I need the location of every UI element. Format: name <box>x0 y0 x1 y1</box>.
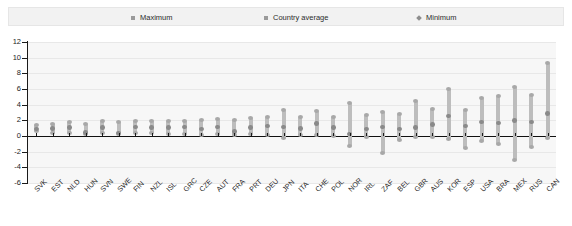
maximum-marker <box>182 119 187 123</box>
y-axis-tick-label: 0 <box>4 132 21 140</box>
x-axis-tick <box>366 133 367 136</box>
minimum-marker <box>512 158 517 162</box>
x-axis-tick <box>284 133 285 136</box>
country-average-marker <box>496 121 501 126</box>
x-axis-tick <box>185 133 186 136</box>
chart-root: Maximum Country average Minimum -6-4-202… <box>0 0 572 226</box>
country-average-marker <box>430 122 435 127</box>
y-axis-tick-label: 6 <box>4 85 21 93</box>
legend-item-minimum: Minimum <box>417 11 456 24</box>
legend-item-label: Country average <box>273 14 328 22</box>
country-average-marker <box>265 124 270 129</box>
legend-item-label: Minimum <box>426 14 456 22</box>
bar-series-layer <box>28 42 556 183</box>
y-axis-tick-label: -4 <box>4 163 21 171</box>
x-axis-tick <box>317 133 318 136</box>
y-axis-tick-label: 8 <box>4 69 21 77</box>
x-axis-labels: SVKESTNLDHUNSVNSWEFINNZLISLGRCCZEAUTFRAP… <box>0 184 572 226</box>
x-axis-tick <box>119 133 120 136</box>
minimum-marker <box>463 146 468 150</box>
legend-item-maximum: Maximum <box>131 11 173 24</box>
x-axis-tick <box>218 133 219 136</box>
bar-range <box>513 86 517 161</box>
legend-item-country-average: Country average <box>264 11 328 24</box>
x-axis-tick <box>383 133 384 136</box>
maximum-marker <box>232 118 237 122</box>
maximum-marker <box>364 113 369 117</box>
x-axis-tick <box>465 133 466 136</box>
legend-minimum-marker-icon <box>416 15 422 21</box>
maximum-marker <box>50 122 55 126</box>
x-axis-tick <box>300 133 301 136</box>
x-axis-tick <box>86 133 87 136</box>
minimum-marker <box>397 138 402 142</box>
x-axis-tick <box>267 133 268 136</box>
minimum-marker <box>281 136 286 140</box>
y-axis-tick-label: 10 <box>4 54 21 62</box>
legend-item-label: Maximum <box>140 14 173 22</box>
maximum-marker <box>529 93 534 97</box>
x-axis-tick <box>515 133 516 136</box>
x-axis-tick <box>69 133 70 136</box>
country-average-marker <box>331 125 336 130</box>
x-axis-tick <box>548 133 549 136</box>
y-axis-tick-label: 12 <box>4 38 21 46</box>
x-axis-tick <box>102 133 103 136</box>
x-axis-tick <box>251 133 252 136</box>
country-average-marker <box>100 125 105 130</box>
x-axis-tick <box>152 133 153 136</box>
minimum-marker <box>380 151 385 155</box>
x-axis-tick <box>482 133 483 136</box>
minimum-marker <box>529 145 534 149</box>
maximum-marker <box>199 118 204 122</box>
y-axis-tick-label: -2 <box>4 148 21 156</box>
country-average-marker <box>50 126 55 131</box>
x-axis-tick <box>432 133 433 136</box>
maximum-marker <box>67 120 72 124</box>
country-average-marker <box>463 124 468 129</box>
country-average-marker <box>166 125 171 130</box>
x-axis-tick <box>449 133 450 136</box>
y-axis-tick-label: 4 <box>4 101 21 109</box>
x-axis-tick <box>333 133 334 136</box>
country-average-marker <box>67 125 72 130</box>
x-axis-tick <box>350 133 351 136</box>
country-average-marker <box>133 125 138 130</box>
maximum-marker <box>430 107 435 111</box>
bar-range <box>414 100 418 138</box>
minimum-marker <box>496 142 501 146</box>
x-axis-tick <box>201 133 202 136</box>
bar-range <box>546 62 550 139</box>
x-axis-tick <box>36 133 37 136</box>
bar-range <box>463 109 467 148</box>
country-average-marker <box>545 111 550 116</box>
country-average-marker <box>298 126 303 131</box>
x-axis-tick <box>531 133 532 136</box>
bar-range <box>348 102 352 147</box>
minimum-marker <box>479 139 484 143</box>
minimum-marker <box>446 137 451 141</box>
maximum-marker <box>149 119 154 123</box>
plot-area: -6-4-2024681012 SVKESTNLDHUNSVNSWEFINNZL… <box>0 32 572 226</box>
x-axis-tick <box>498 133 499 136</box>
x-axis-tick <box>168 133 169 136</box>
legend-maximum-marker-icon <box>131 16 135 20</box>
x-axis-tick <box>416 133 417 136</box>
y-axis-tick-label: 2 <box>4 116 21 124</box>
x-axis-tick <box>135 133 136 136</box>
legend-country-average-marker-icon <box>264 16 268 20</box>
maximum-marker <box>265 115 270 119</box>
x-axis-tick <box>234 133 235 136</box>
x-axis-tick <box>53 133 54 136</box>
maximum-marker <box>331 115 336 119</box>
minimum-marker <box>545 136 550 140</box>
minimum-marker <box>347 144 352 148</box>
chart-legend: Maximum Country average Minimum <box>8 7 564 26</box>
x-axis-tick <box>399 133 400 136</box>
